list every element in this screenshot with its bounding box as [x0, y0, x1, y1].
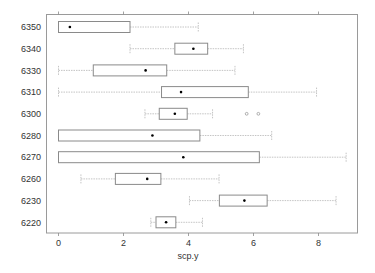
box-row-6350 [59, 22, 199, 33]
median-dot [243, 199, 246, 202]
iqr-box [115, 173, 161, 184]
median-dot [144, 69, 147, 72]
box-row-6260 [81, 173, 219, 184]
box-row-6300 [145, 108, 260, 119]
y-category-label: 6310 [21, 87, 41, 97]
median-dot [151, 134, 154, 137]
x-tick-label: 0 [56, 238, 61, 248]
x-tick-label: 6 [251, 238, 256, 248]
y-category-label: 6330 [21, 66, 41, 76]
y-category-label: 6340 [21, 44, 41, 54]
box-row-6310 [59, 87, 317, 98]
x-axis-title: scp.y [177, 251, 199, 261]
outlier-point [245, 112, 248, 115]
median-dot [192, 47, 195, 50]
median-dot [182, 156, 185, 159]
iqr-box [59, 152, 260, 163]
iqr-box [162, 87, 249, 98]
x-tick-label: 8 [316, 238, 321, 248]
y-category-label: 6220 [21, 218, 41, 228]
median-dot [146, 178, 149, 181]
box-row-6270 [59, 152, 347, 163]
median-dot [180, 91, 183, 94]
iqr-box [175, 43, 208, 54]
y-category-label: 6230 [21, 196, 41, 206]
box-series [59, 22, 347, 228]
iqr-box [93, 65, 166, 76]
box-plot-chart: 02468 6350634063306310630062806270626062… [0, 0, 375, 273]
box-row-6330 [59, 65, 235, 76]
y-category-label: 6270 [21, 152, 41, 162]
iqr-box [59, 130, 200, 141]
box-row-6340 [130, 43, 243, 54]
x-tick-label: 2 [121, 238, 126, 248]
y-category-label: 6280 [21, 131, 41, 141]
y-category-label: 6300 [21, 109, 41, 119]
median-dot [165, 221, 168, 224]
y-category-label: 6260 [21, 174, 41, 184]
x-tick-label: 4 [186, 238, 191, 248]
box-row-6230 [189, 195, 336, 206]
box-row-6220 [151, 217, 203, 228]
y-category-label: 6350 [21, 22, 41, 32]
median-dot [174, 113, 177, 116]
iqr-box [159, 108, 187, 119]
median-dot [69, 26, 72, 29]
outlier-point [257, 112, 260, 115]
x-axis-tick-labels: 02468 [56, 238, 321, 248]
y-axis-category-labels: 6350634063306310630062806270626062306220 [21, 22, 41, 227]
box-row-6280 [59, 130, 272, 141]
